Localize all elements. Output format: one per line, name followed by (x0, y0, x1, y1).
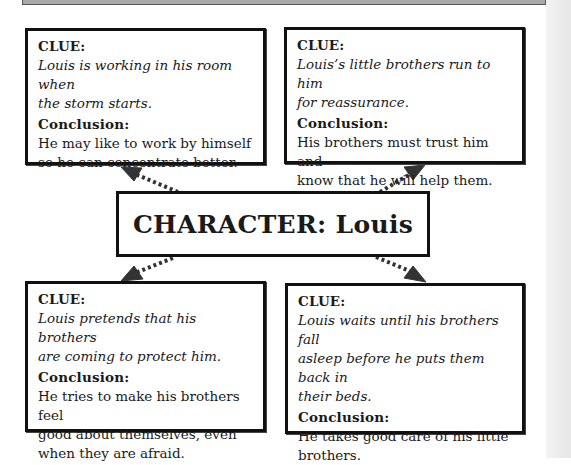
clue-box-top-right: CLUE: Louis’s little brothers run to him… (284, 27, 525, 164)
conclusion-text: He takes good care of his little brother… (298, 427, 512, 465)
clue-label: CLUE: (297, 36, 512, 55)
conclusion-line: know that he will help them. (297, 171, 512, 190)
clue-line: the storm starts. (38, 94, 253, 113)
conclusion-label: Conclusion: (298, 408, 512, 427)
arrow-bottom-left (135, 258, 173, 273)
clue-line: Louis pretends that his brothers (38, 309, 253, 347)
conclusion-line: He tries to make his brothers feel (38, 387, 253, 425)
header-bar (22, 0, 546, 5)
clue-line: Louis is working in his room when (38, 56, 253, 94)
conclusion-label: Conclusion: (297, 114, 512, 133)
conclusion-label: Conclusion: (38, 115, 253, 134)
arrowhead-bottom-left-icon (121, 266, 143, 281)
clue-line: asleep before he puts them back in (298, 349, 512, 387)
conclusion-line: brothers. (298, 446, 512, 465)
clue-text: Louis is working in his room when the st… (38, 56, 253, 113)
conclusion-line: He may like to work by himself (38, 134, 253, 153)
background-strip (546, 0, 571, 458)
conclusion-text: He may like to work by himself so he can… (38, 134, 253, 172)
clue-box-top-left: CLUE: Louis is working in his room when … (25, 28, 266, 165)
arrow-bottom-right (376, 257, 412, 272)
character-box: CHARACTER: Louis (116, 191, 430, 257)
clue-line: for reassurance. (297, 93, 512, 112)
clue-line: Louis’s little brothers run to him (297, 55, 512, 93)
clue-box-bottom-left: CLUE: Louis pretends that his brothers a… (25, 281, 266, 432)
clue-line: their beds. (298, 387, 512, 406)
conclusion-text: He tries to make his brothers feel good … (38, 387, 253, 463)
clue-line: Louis waits until his brothers fall (298, 311, 512, 349)
conclusion-label: Conclusion: (38, 368, 253, 387)
conclusion-line: good about themselves, even (38, 425, 253, 444)
conclusion-line: so he can concentrate better. (38, 153, 253, 172)
clue-label: CLUE: (298, 292, 512, 311)
clue-text: Louis’s little brothers run to him for r… (297, 55, 512, 112)
arrow-top-left (135, 174, 178, 192)
arrowhead-bottom-right-icon (404, 266, 426, 282)
clue-label: CLUE: (38, 37, 253, 56)
clue-text: Louis waits until his brothers fall asle… (298, 311, 512, 406)
clue-label: CLUE: (38, 290, 253, 309)
conclusion-line: He takes good care of his little (298, 427, 512, 446)
clue-line: are coming to protect him. (38, 347, 253, 366)
clue-text: Louis pretends that his brothers are com… (38, 309, 253, 366)
clue-box-bottom-right: CLUE: Louis waits until his brothers fal… (285, 283, 525, 434)
character-title: CHARACTER: Louis (133, 210, 413, 239)
conclusion-line: when they are afraid. (38, 444, 253, 463)
conclusion-text: His brothers must trust him and know tha… (297, 133, 512, 190)
conclusion-line: His brothers must trust him and (297, 133, 512, 171)
